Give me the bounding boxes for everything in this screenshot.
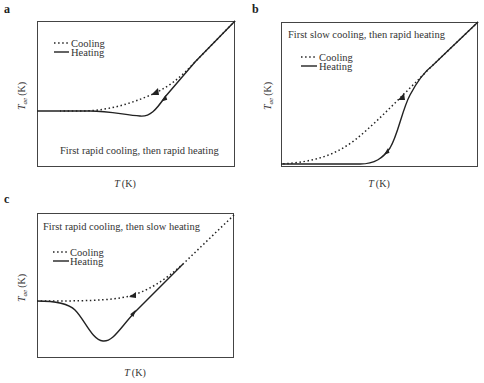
legend-a: Cooling Heating (54, 38, 106, 58)
y-axis-label-a: Tae(K) (16, 82, 29, 110)
panel-letter-a: a (4, 2, 10, 16)
plot-frame-b (282, 23, 478, 167)
legend-heating-label: Heating (319, 61, 353, 72)
x-axis-label-a: T(K) (114, 178, 135, 190)
panel-title-c: First rapid cooling, then slow heating (43, 221, 201, 232)
figure: a Cooling Heating First rapid cooling, t… (0, 0, 484, 383)
y-axis-label-c: Tae(K) (16, 274, 29, 302)
legend-b: Cooling Heating (301, 52, 354, 72)
x-axis-label-c: T(K) (124, 367, 145, 379)
cooling-arrow-icon (129, 292, 136, 298)
panel-letter-b: b (252, 2, 259, 16)
panel-a: a Cooling Heating First rapid cooling, t… (4, 2, 235, 190)
panel-b: b First slow cooling, then rapid heating… (252, 2, 478, 190)
cooling-curve-a (60, 21, 235, 111)
cooling-arrow-icon (398, 93, 405, 100)
cooling-arrow-icon (151, 88, 159, 95)
legend-heating-label: Heating (70, 256, 104, 267)
y-axis-label-b: Tae(K) (262, 82, 275, 110)
heating-curve-a (37, 21, 235, 116)
legend-c: Cooling Heating (53, 247, 105, 267)
panel-title-a: First rapid cooling, then rapid heating (60, 145, 219, 156)
panel-c: c First rapid cooling, then slow heating… (4, 192, 234, 379)
svg-text:Tae(K): Tae(K) (16, 82, 29, 110)
legend-heating-label: Heating (71, 47, 105, 58)
svg-text:Tae(K): Tae(K) (262, 82, 275, 110)
heating-curve-c (37, 264, 183, 341)
cooling-curve-b (281, 22, 478, 164)
heating-curve-b (281, 22, 478, 164)
svg-text:Tae(K): Tae(K) (16, 274, 29, 302)
panel-letter-c: c (4, 192, 10, 206)
panel-title-b: First slow cooling, then rapid heating (288, 29, 446, 40)
plot-frame-c (38, 214, 234, 358)
x-axis-label-b: T(K) (368, 178, 389, 190)
